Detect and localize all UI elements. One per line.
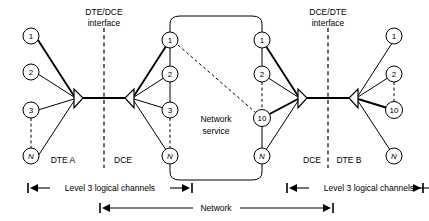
node-b3[interactable]: 3	[162, 102, 178, 118]
network-service-caption-line1: Network	[200, 114, 232, 124]
measure-left-arrow-start	[30, 184, 38, 192]
node-b2-label: 2	[168, 70, 173, 79]
link-bottom-curve-bN-cN	[170, 164, 262, 180]
measure-network-arrow-start	[102, 204, 110, 212]
measure-left-channels: Level 3 logical channels	[28, 183, 192, 193]
measure-right-label: Level 3 logical channels	[324, 183, 414, 193]
node-dN-label: N	[391, 152, 397, 161]
node-c1-label: 1	[260, 36, 265, 45]
measure-left-arrow-end	[182, 184, 190, 192]
node-aN-label: N	[28, 152, 34, 161]
node-a3-label: 3	[29, 106, 34, 115]
right-interface-trunk	[298, 89, 358, 108]
funnel-dte-b	[349, 89, 358, 108]
network-diagram: 1 2 3 N 1 2 3 N	[0, 0, 429, 221]
node-c2-label: 2	[260, 70, 265, 79]
node-aN[interactable]: N	[23, 148, 39, 164]
node-c1[interactable]: 1	[254, 32, 270, 48]
dte-dce-interface-caption: DTE/DCE interface	[85, 7, 123, 28]
dte-b-links	[358, 40, 394, 156]
zone-label-dte-a: DTE A	[51, 155, 76, 165]
node-dN[interactable]: N	[386, 148, 402, 164]
link-a2-funnel	[38, 74, 74, 97]
dte-a-links	[31, 40, 74, 156]
measure-network-label: Network	[200, 203, 232, 213]
node-b2[interactable]: 2	[162, 66, 178, 82]
dce-right-links	[262, 40, 298, 156]
link-diagonal-b1-c10	[178, 45, 255, 112]
dce-dte-interface-caption-line2: interface	[312, 18, 345, 28]
measure-left-label: Level 3 logical channels	[65, 183, 155, 193]
node-cN[interactable]: N	[254, 148, 270, 164]
zone-label-dte-b: DTE B	[336, 155, 361, 165]
link-aN-funnel	[38, 101, 74, 156]
node-d2-label: 2	[392, 70, 397, 79]
node-a2[interactable]: 2	[23, 64, 39, 80]
node-bN-label: N	[167, 152, 173, 161]
node-bN[interactable]: N	[162, 148, 178, 164]
node-b1-label: 1	[168, 36, 173, 45]
node-d1-label: 1	[392, 32, 397, 41]
node-c10[interactable]: 10	[254, 110, 271, 127]
funnel-dte-a	[74, 89, 83, 108]
dce-dte-interface-caption: DCE/DTE interface	[309, 7, 347, 28]
node-b1[interactable]: 1	[162, 32, 178, 48]
node-d1[interactable]: 1	[386, 28, 402, 44]
measure-right-arrow-start	[289, 184, 297, 192]
network-service-caption: Network service	[200, 114, 232, 136]
dce-left-links	[134, 40, 170, 156]
node-a3[interactable]: 3	[23, 102, 39, 118]
node-c2[interactable]: 2	[254, 66, 270, 82]
node-d10-label: 10	[390, 106, 399, 115]
node-d2[interactable]: 2	[386, 66, 402, 82]
dte-dce-interface-caption-line1: DTE/DCE	[85, 7, 123, 17]
node-b3-label: 3	[168, 106, 173, 115]
left-interface-trunk	[74, 89, 134, 108]
funnel-dce-right	[298, 89, 307, 108]
node-c10-label: 10	[258, 114, 267, 123]
zone-label-dce-left: DCE	[114, 155, 132, 165]
link-a1-funnel	[38, 40, 74, 96]
node-a2-label: 2	[29, 68, 34, 77]
node-a1-label: 1	[29, 32, 34, 41]
dce-dte-interface-caption-line1: DCE/DTE	[309, 7, 347, 17]
zone-label-dce-right: DCE	[303, 155, 321, 165]
node-a1[interactable]: 1	[23, 28, 39, 44]
network-service-connectors	[170, 16, 262, 180]
measure-network-arrow-end	[323, 204, 331, 212]
network-service-caption-line2: service	[203, 126, 230, 136]
funnel-dce-left	[125, 89, 134, 108]
diagram-canvas: 1 2 3 N 1 2 3 N	[0, 0, 429, 221]
link-top-curve-b1-c1	[170, 16, 262, 32]
dte-dce-interface-caption-line2: interface	[88, 18, 121, 28]
node-d10[interactable]: 10	[386, 102, 403, 119]
node-cN-label: N	[259, 152, 265, 161]
measure-right-channels: Level 3 logical channels	[287, 183, 429, 193]
measure-network-span: Network	[100, 203, 333, 213]
measure-right-arrow-end	[413, 184, 421, 192]
